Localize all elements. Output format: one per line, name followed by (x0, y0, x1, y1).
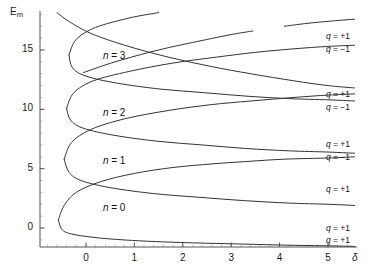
curve-ascending-top-right (284, 19, 354, 26)
y-tick-label: 10 (11, 102, 33, 113)
curve-band-3-upper (69, 13, 159, 55)
q-label-symbol: q (326, 44, 331, 54)
q-label: q = +1 (326, 89, 350, 99)
band-label-symbol: n (103, 155, 109, 166)
y-tick-label: 15 (11, 43, 33, 54)
q-label-symbol: q (326, 223, 331, 233)
y-axis-title-main: E (10, 6, 17, 17)
q-label: q = −1 (326, 44, 350, 54)
q-label: q = +1 (326, 139, 350, 149)
band-label-symbol: n (103, 107, 109, 118)
x-tick-label: 1 (126, 252, 142, 263)
q-label: q = −1 (326, 152, 350, 162)
curve-band-1-upper (64, 94, 354, 159)
q-label-symbol: q (326, 235, 331, 245)
q-label: q = +1 (326, 235, 350, 245)
q-label: q = −1 (326, 102, 350, 112)
y-tick-label: 5 (11, 162, 33, 173)
x-tick-label: 4 (272, 252, 288, 263)
q-label-symbol: q (326, 89, 331, 99)
curve-band-1-lower (64, 159, 354, 205)
x-tick-label: 5 (320, 252, 336, 263)
q-label-symbol: q (326, 31, 331, 41)
band-label-symbol: n (103, 50, 109, 61)
y-tick-label: 0 (11, 221, 33, 232)
band-label: n = 0 (103, 202, 126, 213)
band-label: n = 1 (103, 155, 126, 166)
curve-descending-top (57, 13, 355, 88)
energy-band-plot (0, 0, 369, 274)
figure-panel: Em δ 012345051015 n = 3n = 2n = 1n = 0 q… (0, 0, 369, 274)
axes-layer (40, 11, 357, 247)
q-label-symbol: q (326, 184, 331, 194)
x-tick-label: 2 (175, 252, 191, 263)
band-label: n = 3 (103, 50, 126, 61)
q-label-symbol: q (326, 102, 331, 112)
x-tick-label: 0 (78, 252, 94, 263)
band-label: n = 2 (103, 107, 126, 118)
y-axis-title: Em (10, 6, 23, 19)
x-axis-title: δ (352, 252, 358, 263)
q-label: q = +1 (326, 184, 350, 194)
q-label-symbol: q (326, 152, 331, 162)
y-axis-title-subscript: m (17, 10, 23, 19)
x-tick-label: 3 (223, 252, 239, 263)
q-label-symbol: q (326, 139, 331, 149)
curve-band-0-lower (58, 220, 354, 247)
curves-layer (57, 13, 355, 247)
band-label-symbol: n (103, 202, 109, 213)
q-label: q = +1 (326, 31, 350, 41)
q-label: q = +1 (326, 223, 350, 233)
curve-band-3-lower (69, 55, 355, 101)
